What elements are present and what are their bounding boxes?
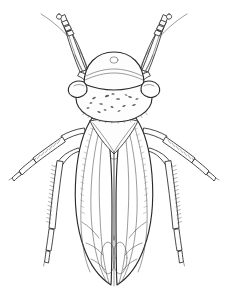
- foreleg-right-tarsus: [154, 20, 166, 36]
- eye-left: [68, 81, 87, 97]
- foreleg-left-tarsus: [62, 20, 74, 36]
- crown: [84, 52, 144, 90]
- midleg-left-bristles: [34, 140, 61, 162]
- insect-drawing-svg: [0, 0, 228, 294]
- insect-illustration-figure: [0, 0, 228, 294]
- hindleg-left: [44, 148, 81, 266]
- eye-right: [141, 81, 160, 97]
- midleg-left: [9, 128, 85, 181]
- midleg-right-bristles: [168, 140, 195, 162]
- midleg-right: [143, 128, 219, 181]
- foreleg-left: [56, 14, 90, 82]
- hindleg-right: [148, 148, 185, 266]
- foreleg-right: [138, 14, 172, 82]
